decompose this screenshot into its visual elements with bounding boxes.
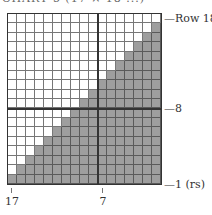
chart-cell bbox=[116, 42, 125, 51]
chart-cell bbox=[17, 156, 26, 165]
chart-cell bbox=[134, 90, 143, 99]
chart-cell bbox=[17, 90, 26, 99]
chart-cell bbox=[125, 42, 134, 51]
chart-cell bbox=[62, 52, 71, 61]
chart-cell bbox=[8, 165, 17, 174]
chart-cell bbox=[98, 175, 107, 184]
chart-cell bbox=[143, 23, 152, 32]
chart-cell bbox=[44, 23, 53, 32]
chart-cell bbox=[98, 42, 107, 51]
chart-cell bbox=[98, 146, 107, 155]
chart-cell bbox=[35, 118, 44, 127]
chart-cell bbox=[26, 118, 35, 127]
chart-cell bbox=[44, 146, 53, 155]
chart-cell bbox=[80, 52, 89, 61]
chart-cell bbox=[44, 165, 53, 174]
chart-cell bbox=[143, 61, 152, 70]
chart-cell bbox=[62, 146, 71, 155]
chart-cell bbox=[107, 33, 116, 42]
chart-cell bbox=[44, 137, 53, 146]
chart-cell bbox=[35, 80, 44, 89]
chart-cell bbox=[116, 71, 125, 80]
chart-cell bbox=[116, 61, 125, 70]
chart-cell bbox=[134, 127, 143, 136]
chart-cell bbox=[116, 175, 125, 184]
chart-cell bbox=[35, 165, 44, 174]
chart-cell bbox=[80, 80, 89, 89]
chart-cell bbox=[80, 71, 89, 80]
chart-cell bbox=[35, 156, 44, 165]
chart-cell bbox=[17, 42, 26, 51]
chart-cell bbox=[44, 118, 53, 127]
chart-cell bbox=[62, 42, 71, 51]
chart-cell bbox=[53, 71, 62, 80]
chart-cell bbox=[71, 61, 80, 70]
chart-cell bbox=[17, 61, 26, 70]
chart-cell bbox=[71, 146, 80, 155]
chart-cell bbox=[152, 165, 161, 174]
chart-cell bbox=[80, 90, 89, 99]
chart-cell bbox=[44, 52, 53, 61]
chart-cell bbox=[8, 146, 17, 155]
chart-cell bbox=[98, 165, 107, 174]
chart-cell bbox=[8, 118, 17, 127]
chart-cell bbox=[17, 33, 26, 42]
chart-cell bbox=[26, 52, 35, 61]
chart-cell bbox=[71, 137, 80, 146]
chart-cell bbox=[143, 165, 152, 174]
chart-cell bbox=[17, 80, 26, 89]
chart-cell bbox=[8, 127, 17, 136]
chart-cell bbox=[125, 23, 134, 32]
chart-cell bbox=[8, 52, 17, 61]
chart-cell bbox=[107, 23, 116, 32]
chart-cell bbox=[80, 146, 89, 155]
chart-cell bbox=[107, 175, 116, 184]
chart-cell bbox=[152, 23, 161, 32]
chart-cell bbox=[125, 137, 134, 146]
chart-cell bbox=[107, 80, 116, 89]
chart-cell bbox=[152, 146, 161, 155]
chart-cell bbox=[116, 80, 125, 89]
chart-cell bbox=[143, 137, 152, 146]
chart-cell bbox=[98, 71, 107, 80]
chart-cell bbox=[71, 80, 80, 89]
chart-cell bbox=[62, 175, 71, 184]
chart-cell bbox=[35, 146, 44, 155]
chart-cell bbox=[116, 23, 125, 32]
chart-cell bbox=[80, 33, 89, 42]
chart-cell bbox=[8, 90, 17, 99]
chart-cell bbox=[143, 14, 152, 23]
chart-cell bbox=[116, 118, 125, 127]
chart-cell bbox=[80, 156, 89, 165]
chart-cell bbox=[44, 61, 53, 70]
chart-cell bbox=[98, 52, 107, 61]
chart-cell bbox=[53, 80, 62, 89]
chart-cell bbox=[53, 156, 62, 165]
chart-cell bbox=[62, 23, 71, 32]
chart-cell bbox=[107, 118, 116, 127]
chart-cell bbox=[17, 127, 26, 136]
chart-cell bbox=[53, 165, 62, 174]
chart-cell bbox=[116, 90, 125, 99]
chart-cell bbox=[8, 156, 17, 165]
chart-cell bbox=[107, 156, 116, 165]
chart-cell bbox=[152, 90, 161, 99]
chart-cell bbox=[98, 90, 107, 99]
chart-cell bbox=[35, 127, 44, 136]
knitting-chart-grid bbox=[7, 13, 162, 185]
chart-cell bbox=[26, 33, 35, 42]
chart-cell bbox=[44, 42, 53, 51]
chart-cell bbox=[134, 175, 143, 184]
chart-cell bbox=[53, 146, 62, 155]
col-7-tick bbox=[102, 188, 103, 193]
chart-cell bbox=[125, 156, 134, 165]
chart-cell bbox=[26, 80, 35, 89]
chart-cell bbox=[26, 23, 35, 32]
chart-cell bbox=[17, 23, 26, 32]
chart-cell bbox=[71, 90, 80, 99]
chart-cell bbox=[8, 80, 17, 89]
chart-cell bbox=[8, 42, 17, 51]
chart-cell bbox=[125, 71, 134, 80]
chart-cell bbox=[125, 52, 134, 61]
chart-cell bbox=[62, 14, 71, 23]
